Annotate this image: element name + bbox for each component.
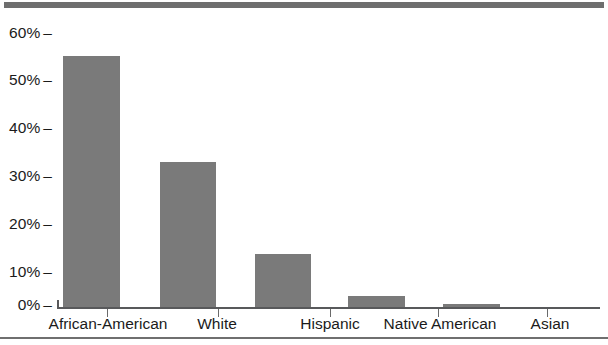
y-axis-tick-label-20: 20%– — [0, 215, 52, 233]
y-axis-tick-label-60: 60%– — [0, 24, 52, 42]
y-tick-dash: – — [43, 119, 52, 137]
chart-page: 60%– 50%– 40%– 30%– 20%– 10%– 0%– Africa… — [0, 0, 608, 345]
y-tick-dash: – — [43, 215, 52, 233]
bar-african-american[interactable] — [63, 56, 120, 308]
y-tick-dash: – — [43, 263, 52, 281]
y-axis-tick-label-40: 40%– — [0, 119, 52, 137]
bar-chart-plot-area: 60%– 50%– 40%– 30%– 20%– 10%– 0%– Africa… — [0, 0, 608, 345]
y-axis-tick-label-50: 50%– — [0, 71, 52, 89]
bottom-divider-rule — [0, 337, 608, 339]
y-axis-tick-label-30: 30%– — [0, 167, 52, 185]
y-axis-tick-label-10: 10%– — [0, 263, 52, 281]
x-axis-label-white: White — [197, 315, 237, 333]
x-axis-label-native-american: Native American — [384, 315, 497, 333]
y-axis-tick-label-0: 0%– — [0, 296, 52, 314]
bar-white[interactable] — [160, 162, 216, 308]
x-axis-line — [57, 307, 600, 309]
x-axis-label-hispanic: Hispanic — [300, 315, 359, 333]
y-tick-dash: – — [43, 167, 52, 185]
x-axis-label-asian: Asian — [531, 315, 570, 333]
y-tick-dash: – — [43, 71, 52, 89]
x-axis-label-african-american: African-American — [49, 315, 168, 333]
y-tick-dash: – — [43, 24, 52, 42]
bar-hispanic[interactable] — [255, 254, 311, 308]
y-tick-dash: – — [43, 296, 52, 314]
